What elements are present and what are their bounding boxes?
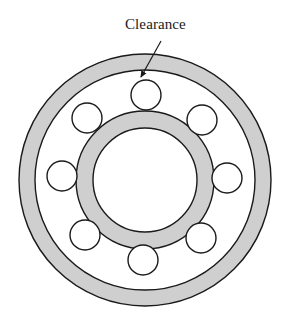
- clearance-label: Clearance: [125, 16, 186, 33]
- ball-3: [212, 163, 242, 193]
- ball-6: [70, 220, 100, 250]
- ball-elements: [47, 80, 242, 275]
- bearing-diagram: Clearance: [0, 0, 286, 333]
- bearing-cross-section: [0, 0, 286, 333]
- ball-2: [187, 105, 217, 135]
- ball-7: [47, 161, 77, 191]
- ball-8: [72, 103, 102, 133]
- ball-5: [128, 245, 158, 275]
- ball-4: [186, 223, 216, 253]
- ball-1: [131, 80, 161, 110]
